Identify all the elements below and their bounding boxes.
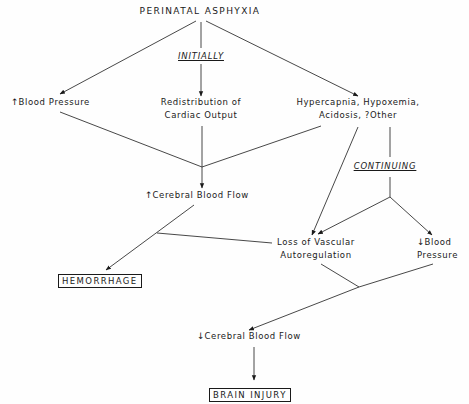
node-loss-vascular-autoregulation: Loss of Vascular Autoregulation	[277, 236, 355, 262]
node-label-line2: Acidosis, ?Other	[296, 109, 419, 122]
flow-diagram: PERINATAL ASPHYXIA INITIALLY ↑Blood Pres…	[0, 0, 469, 404]
outcome-brain-injury: BRAIN INJURY	[209, 388, 291, 402]
node-label: Cerebral Blood Flow	[153, 190, 249, 200]
node-redistribution-cardiac-output: Redistribution of Cardiac Output	[161, 96, 241, 122]
arrow-up-icon: ↑	[145, 190, 153, 200]
node-label: Blood Pressure	[19, 97, 90, 107]
arrow-down-icon: ↓	[197, 331, 205, 341]
phase-label-continuing: CONTINUING	[354, 160, 417, 173]
arrow-down-icon: ↓	[417, 237, 425, 247]
node-label-line1: Redistribution of	[161, 96, 241, 109]
node-label-line1: Blood	[425, 237, 452, 247]
node-cerebral-blood-flow-decrease: ↓Cerebral Blood Flow	[197, 330, 301, 343]
node-label-line1: Hypercapnia, Hypoxemia,	[296, 96, 419, 109]
node-label-line2: Cardiac Output	[161, 109, 241, 122]
node-label-line2: Autoregulation	[277, 249, 355, 262]
node-blood-pressure-increase: ↑Blood Pressure	[11, 96, 90, 109]
title-perinatal-asphyxia: PERINATAL ASPHYXIA	[140, 5, 261, 18]
arrow-up-icon: ↑	[11, 97, 19, 107]
node-label: Cerebral Blood Flow	[205, 331, 301, 341]
node-blood-pressure-decrease: ↓Blood Pressure	[417, 236, 458, 262]
outcome-hemorrhage: HEMORRHAGE	[58, 274, 142, 288]
connector-lines	[0, 0, 469, 404]
node-cerebral-blood-flow-increase: ↑Cerebral Blood Flow	[145, 189, 249, 202]
node-label-line2: Pressure	[417, 249, 458, 262]
node-label-line1: Loss of Vascular	[277, 236, 355, 249]
phase-label-initially: INITIALLY	[178, 50, 224, 63]
node-hypercapnia-hypoxemia: Hypercapnia, Hypoxemia, Acidosis, ?Other	[296, 96, 419, 122]
